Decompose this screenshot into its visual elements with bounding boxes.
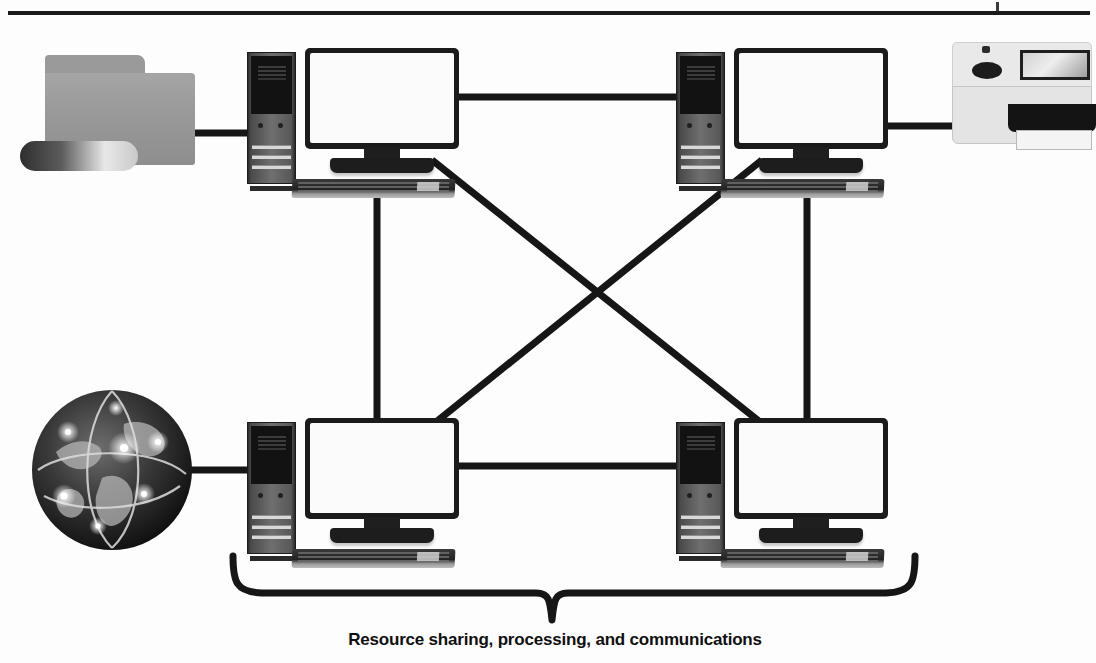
monitor-stand — [759, 158, 863, 173]
pc-tower — [247, 422, 296, 554]
tower-vent — [687, 436, 715, 438]
tower-indicator — [278, 123, 283, 128]
tower-indicator — [278, 493, 283, 498]
keyboard-numpad — [846, 182, 868, 191]
tower-power-button — [687, 493, 692, 498]
tower-power-button — [258, 123, 263, 128]
printer-control-knob — [972, 62, 1002, 79]
tower-power-button — [258, 493, 263, 498]
tower-vent — [258, 66, 286, 68]
tower-upper-panel — [680, 56, 721, 114]
tower-drive-slot — [681, 165, 720, 169]
tower-upper-panel — [251, 426, 292, 484]
keyboard — [721, 179, 885, 198]
monitor-screen — [310, 423, 454, 513]
printer-display-panel — [1020, 50, 1090, 80]
pc-tower — [676, 52, 725, 184]
pc-tower — [676, 422, 725, 554]
tower-indicator — [707, 493, 712, 498]
tower-upper-panel — [680, 426, 721, 484]
tower-drive-slot — [252, 535, 291, 539]
workstation-top-right — [676, 48, 888, 198]
keyboard — [292, 179, 456, 198]
internet-globe-icon — [28, 386, 196, 554]
tower-drive-slot — [252, 515, 291, 519]
tower-upper-panel — [251, 56, 292, 114]
tower-drive-slot — [252, 165, 291, 169]
monitor-screen — [310, 53, 454, 143]
monitor-stand — [330, 158, 434, 173]
shared-printer-icon — [946, 36, 1096, 161]
printer-output-tray — [1016, 130, 1092, 150]
tower-base — [679, 186, 724, 191]
printer-led-icon — [982, 46, 990, 53]
monitor — [734, 418, 888, 519]
tower-vent — [258, 436, 286, 438]
monitor — [734, 48, 888, 149]
monitor-stand — [759, 528, 863, 543]
tower-base — [250, 556, 295, 561]
tower-indicator — [707, 123, 712, 128]
tower-drive-slot — [252, 525, 291, 529]
printer-paper-slot — [1008, 104, 1096, 132]
tower-vent — [687, 66, 715, 68]
monitor — [305, 418, 459, 519]
tower-drive-slot — [681, 155, 720, 159]
tower-base — [679, 556, 724, 561]
monitor-screen — [739, 53, 883, 143]
tower-drive-slot — [252, 155, 291, 159]
workstation-bottom-left — [247, 418, 459, 568]
tower-drive-slot — [681, 515, 720, 519]
network-diagram: Resource sharing, processing, and commun… — [0, 0, 1096, 663]
diagram-caption: Resource sharing, processing, and commun… — [215, 630, 895, 650]
keyboard — [292, 549, 456, 568]
tower-drive-slot — [252, 145, 291, 149]
keyboard-numpad — [417, 182, 439, 191]
workstation-bottom-right — [676, 418, 888, 568]
monitor — [305, 48, 459, 149]
keyboard — [721, 549, 885, 568]
keyboard-numpad — [846, 552, 868, 561]
keyboard-numpad — [417, 552, 439, 561]
tower-drive-slot — [681, 145, 720, 149]
shared-files-folder-icon — [20, 55, 200, 175]
monitor-stand — [330, 528, 434, 543]
tower-drive-slot — [681, 535, 720, 539]
pc-tower — [247, 52, 296, 184]
workstation-top-left — [247, 48, 459, 198]
tower-base — [250, 186, 295, 191]
folder-disk — [20, 141, 138, 171]
monitor-screen — [739, 423, 883, 513]
tower-drive-slot — [681, 525, 720, 529]
tower-power-button — [687, 123, 692, 128]
